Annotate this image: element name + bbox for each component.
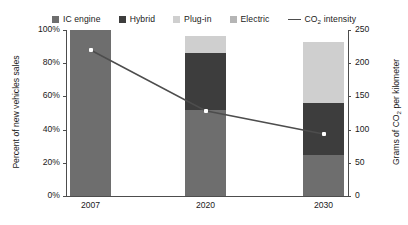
y-left-tick-label-20: 20% xyxy=(20,158,60,167)
y-right-tick-label-250: 250 xyxy=(355,25,395,34)
y-right-tick-label-50: 50 xyxy=(355,158,395,167)
co2-vehicle-sales-chart: IC engine Hybrid Plug-in Electric CO2 in… xyxy=(0,0,408,225)
legend-swatch-ic-engine xyxy=(52,16,59,23)
chart-legend: IC engine Hybrid Plug-in Electric CO2 in… xyxy=(0,12,408,26)
y-left-tick-label-100: 100% xyxy=(20,25,60,34)
y-left-tick-label-0: 0% xyxy=(20,191,60,200)
legend-swatch-electric xyxy=(230,16,237,23)
legend-item-electric[interactable]: Electric xyxy=(230,14,270,24)
co2-marker-2007[interactable] xyxy=(89,48,93,52)
legend-item-plug-in[interactable]: Plug-in xyxy=(173,14,211,24)
legend-label-electric: Electric xyxy=(241,14,270,24)
legend-label-plug-in: Plug-in xyxy=(184,14,211,24)
legend-item-co2-intensity[interactable]: CO2 intensity xyxy=(288,14,357,24)
co2-marker-2020[interactable] xyxy=(204,109,208,113)
co2-intensity-polyline xyxy=(91,50,324,134)
legend-label-hybrid: Hybrid xyxy=(130,14,155,24)
legend-swatch-hybrid xyxy=(119,16,126,23)
legend-item-ic-engine[interactable]: IC engine xyxy=(52,14,101,24)
plot-area: 100% 80% 60% 40% 20% 0% 250 200 150 100 … xyxy=(66,30,349,196)
co2-marker-2030[interactable] xyxy=(322,132,326,136)
y-left-tick-label-40: 40% xyxy=(20,125,60,134)
y-right-tick-label-150: 150 xyxy=(355,91,395,100)
legend-label-ic-engine: IC engine xyxy=(63,14,101,24)
y-right-tick-label-200: 200 xyxy=(355,58,395,67)
y-left-tick-label-80: 80% xyxy=(20,58,60,67)
co2-intensity-line xyxy=(66,30,349,197)
legend-label-co2-intensity: CO2 intensity xyxy=(305,14,357,24)
y-right-tick-label-100: 100 xyxy=(355,125,395,134)
y-right-tick-label-0: 0 xyxy=(355,191,395,200)
legend-swatch-plug-in xyxy=(173,16,180,23)
legend-line-icon xyxy=(288,19,301,20)
x-axis-tick-label-2007: 2007 xyxy=(70,200,111,210)
y-left-tick-label-60: 60% xyxy=(20,91,60,100)
legend-item-hybrid[interactable]: Hybrid xyxy=(119,14,155,24)
x-axis-tick-label-2030: 2030 xyxy=(303,200,344,210)
x-axis-tick-label-2020: 2020 xyxy=(185,200,226,210)
